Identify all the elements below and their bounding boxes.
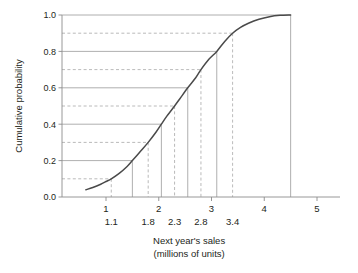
x-axis-title-line1: Next year's sales: [153, 235, 225, 246]
x-minor-tick-label-1: 1.8: [142, 216, 155, 227]
y-tick-label-5: 1.0: [43, 10, 56, 20]
x-major-tick-label-3: 4: [262, 203, 267, 214]
y-tick-label-1: 0.2: [43, 156, 56, 166]
x-axis-title-line2: (millions of units): [153, 248, 224, 259]
y-tick-label-0: 0.0: [43, 192, 56, 202]
y-tick-label-4: 0.8: [43, 47, 56, 57]
x-major-tick-label-1: 2: [156, 203, 161, 214]
y-tick-label-2: 0.4: [43, 120, 56, 130]
y-axis-title: Cumulative probability: [13, 59, 24, 153]
y-tick-label-3: 0.6: [43, 83, 56, 93]
x-major-tick-label-0: 1: [103, 203, 108, 214]
x-minor-tick-label-0: 1.1: [105, 216, 118, 227]
cumulative-distribution-curve: [86, 15, 291, 190]
x-minor-tick-label-3: 2.8: [194, 216, 207, 227]
x-major-tick-label-2: 3: [209, 203, 214, 214]
x-minor-tick-label-4: 3.4: [226, 216, 239, 227]
chart-canvas: 0.00.20.40.60.81.0123451.11.82.32.83.4Cu…: [0, 0, 358, 273]
x-major-tick-label-4: 5: [314, 203, 319, 214]
cumulative-probability-chart: 0.00.20.40.60.81.0123451.11.82.32.83.4Cu…: [0, 0, 358, 273]
x-minor-tick-label-2: 2.3: [168, 216, 181, 227]
